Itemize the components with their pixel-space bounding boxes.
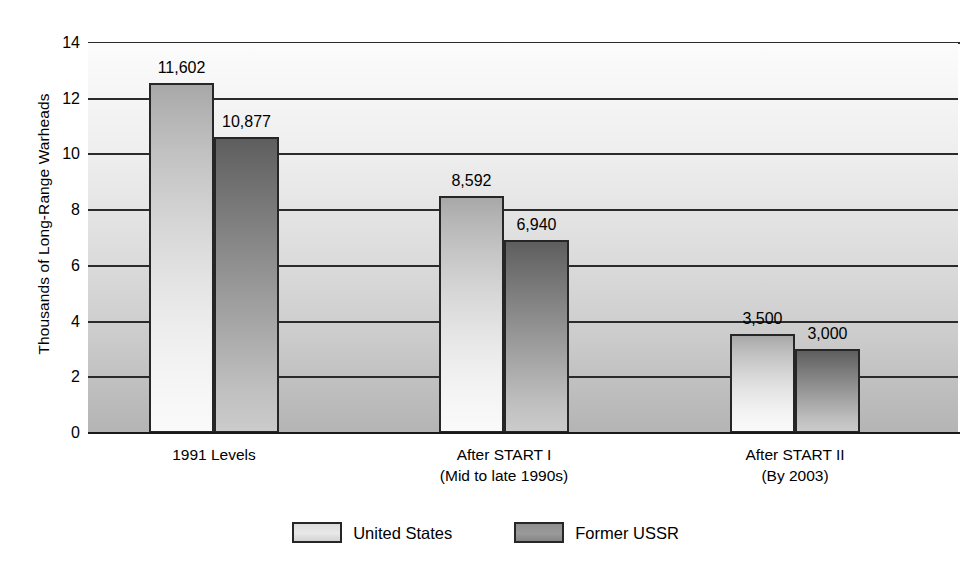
x-category-label-2-line-2: (Mid to late 1990s) (354, 465, 654, 486)
y-tick-4: 4 (10, 314, 80, 330)
x-category-label-2: After START I(Mid to late 1990s) (354, 444, 654, 486)
y-tick-14: 14 (10, 35, 80, 51)
legend-item-united-states[interactable]: United States (292, 522, 452, 543)
y-tick-10: 10 (10, 146, 80, 162)
bar-value-label-former-ussr-3: 3,000 (783, 326, 872, 342)
bar-former-ussr-3[interactable] (795, 349, 860, 433)
bar-value-label-former-ussr-1: 10,877 (202, 114, 291, 130)
x-category-label-3-line-2: (By 2003) (645, 465, 945, 486)
y-tick-6: 6 (10, 258, 80, 274)
plot-area: 11,6028,5923,50010,8776,9403,000 (88, 43, 958, 433)
bar-former-ussr-2[interactable] (504, 240, 569, 433)
y-axis-tick-labels: 14121086420 (0, 0, 80, 570)
y-tick-12: 12 (10, 91, 80, 107)
bar-value-label-united-states-3: 3,500 (718, 311, 807, 327)
y-tick-0: 0 (10, 425, 80, 441)
legend: United States Former USSR (0, 522, 971, 543)
legend-swatch-former-ussr (514, 522, 564, 543)
bar-value-label-former-ussr-2: 6,940 (492, 217, 581, 233)
bar-united-states-1[interactable] (149, 83, 214, 433)
x-category-label-3: After START II(By 2003) (645, 444, 945, 486)
bar-value-label-united-states-1: 11,602 (137, 60, 226, 76)
bar-value-label-united-states-2: 8,592 (427, 173, 516, 189)
x-category-label-1: 1991 Levels (64, 444, 364, 465)
x-axis-baseline (88, 432, 960, 434)
legend-label-former-ussr: Former USSR (575, 524, 679, 542)
y-tick-8: 8 (10, 202, 80, 218)
bar-chart: Thousands of Long-Range Warheads 1412108… (0, 0, 971, 570)
x-category-label-1-line-1: 1991 Levels (64, 444, 364, 465)
gridline-12 (88, 98, 958, 100)
y-tick-2: 2 (10, 369, 80, 385)
bar-united-states-3[interactable] (730, 334, 795, 433)
bar-former-ussr-1[interactable] (214, 137, 279, 433)
x-category-label-3-line-1: After START II (645, 444, 945, 465)
legend-swatch-united-states (292, 522, 342, 543)
x-category-label-2-line-1: After START I (354, 444, 654, 465)
legend-item-former-ussr[interactable]: Former USSR (514, 522, 679, 543)
legend-label-united-states: United States (353, 524, 452, 542)
